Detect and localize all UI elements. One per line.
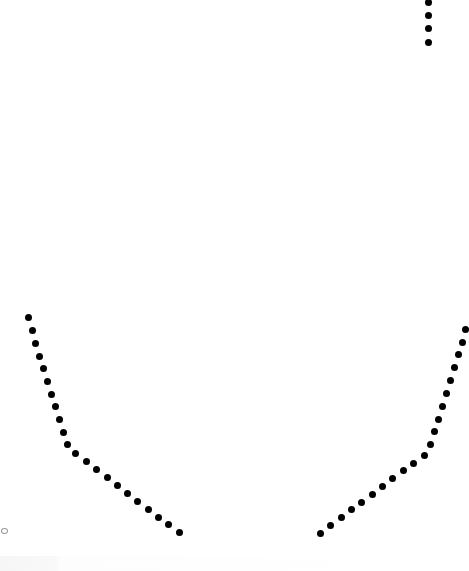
dot-icon	[145, 506, 152, 513]
dot-icon	[455, 351, 462, 358]
dot-icon	[44, 378, 51, 385]
dot-icon	[176, 529, 183, 536]
dot-icon	[104, 474, 111, 481]
dot-icon	[379, 483, 386, 490]
dot-icon	[40, 365, 47, 372]
dot-icon	[25, 314, 32, 321]
dot-icon	[52, 403, 59, 410]
dot-icon	[48, 391, 55, 398]
dot-icon	[421, 452, 428, 459]
dot-icon	[389, 475, 396, 482]
dot-icon	[327, 522, 334, 529]
dot-icon	[447, 377, 454, 384]
dot-icon	[60, 429, 67, 436]
dot-icon	[369, 491, 376, 498]
dot-icon	[443, 390, 450, 397]
dot-icon	[425, 39, 432, 46]
dot-icon	[93, 466, 100, 473]
dot-icon	[165, 521, 172, 528]
dot-icon	[29, 327, 36, 334]
dot-icon	[134, 498, 141, 505]
dot-icon	[439, 403, 446, 410]
dot-icon	[410, 460, 417, 467]
dot-icon	[435, 416, 442, 423]
dot-icon	[459, 339, 466, 346]
dot-icon	[425, 12, 432, 19]
dot-icon	[425, 25, 432, 32]
dot-icon	[358, 499, 365, 506]
dot-icon	[348, 506, 355, 513]
dot-icon	[317, 530, 324, 537]
dot-icon	[431, 428, 438, 435]
dot-icon	[155, 514, 162, 521]
dot-icon	[114, 482, 121, 489]
dot-icon	[72, 450, 79, 457]
dot-icon	[64, 441, 71, 448]
dot-icon	[56, 416, 63, 423]
dot-icon	[32, 340, 39, 347]
dot-icon	[425, 0, 432, 6]
dot-icon	[36, 353, 43, 360]
dot-icon	[83, 458, 90, 465]
dot-icon	[124, 490, 131, 497]
dot-icon	[427, 441, 434, 448]
dot-icon	[451, 364, 458, 371]
faded-footer-strip	[0, 556, 466, 571]
dot-icon	[462, 326, 469, 333]
hollow-ring-marker	[1, 528, 8, 534]
dot-icon	[338, 514, 345, 521]
dot-icon	[400, 467, 407, 474]
